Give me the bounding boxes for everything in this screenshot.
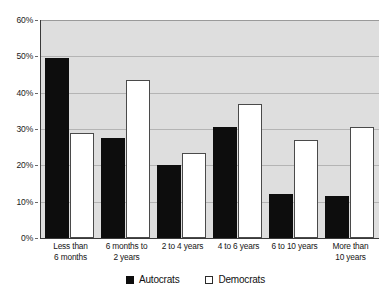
chart-legend: Autocrats Democrats <box>0 274 391 285</box>
bars-layer <box>41 20 379 238</box>
x-cat-label-2-to-4-years: 2 to 4 years <box>152 241 213 252</box>
bar-democrats-less-than-6-months <box>70 133 94 238</box>
bar-democrats-more-than-10-years <box>350 127 374 238</box>
x-cat-label-6-months-to-2-years: 6 months to 2 years <box>96 241 157 263</box>
y-tick-label-20: 20% <box>17 160 33 170</box>
y-tick-dash-0 <box>35 238 38 239</box>
bar-group-4-to-6-years <box>213 20 266 238</box>
y-tick-dash-30 <box>35 129 38 130</box>
legend-swatch-democrats-icon <box>205 276 213 284</box>
bar-democrats-6-months-to-2-years <box>126 80 150 238</box>
bar-group-6-to-10-years <box>269 20 322 238</box>
y-axis: 60% 50% 40% 30% 20% 10% 0% <box>0 0 38 298</box>
y-tick-label-60: 60% <box>17 15 33 25</box>
bar-autocrats-6-to-10-years <box>269 194 293 238</box>
y-tick-dash-60 <box>35 20 38 21</box>
y-tick-dash-20 <box>35 165 38 166</box>
y-tick-label-30: 30% <box>17 124 33 134</box>
bar-autocrats-more-than-10-years <box>325 196 349 238</box>
plot-area <box>40 20 379 239</box>
legend-swatch-autocrats-icon <box>126 276 134 284</box>
bar-chart: 60% 50% 40% 30% 20% 10% 0% <box>0 0 391 298</box>
bar-democrats-6-to-10-years <box>294 140 318 238</box>
y-tick-label-10: 10% <box>17 197 33 207</box>
bar-autocrats-less-than-6-months <box>45 58 69 238</box>
y-tick-label-50: 50% <box>17 51 33 61</box>
y-tick-label-40: 40% <box>17 88 33 98</box>
legend-label-autocrats: Autocrats <box>139 274 179 285</box>
bar-autocrats-2-to-4-years <box>157 165 181 238</box>
legend-item-autocrats: Autocrats <box>126 274 179 285</box>
bar-group-less-than-6-months <box>45 20 98 238</box>
bar-autocrats-6-months-to-2-years <box>101 138 125 238</box>
bar-democrats-2-to-4-years <box>182 153 206 238</box>
x-axis: Less than 6 months 6 months to 2 years 2… <box>40 241 378 273</box>
x-cat-label-less-than-6-months: Less than 6 months <box>40 241 101 263</box>
y-tick-dash-40 <box>35 93 38 94</box>
bar-group-more-than-10-years <box>325 20 378 238</box>
x-cat-label-6-to-10-years: 6 to 10 years <box>264 241 325 252</box>
legend-label-democrats: Democrats <box>218 274 265 285</box>
y-tick-dash-10 <box>35 202 38 203</box>
bar-democrats-4-to-6-years <box>238 104 262 238</box>
bar-group-2-to-4-years <box>157 20 210 238</box>
bar-group-6-months-to-2-years <box>101 20 154 238</box>
legend-item-democrats: Democrats <box>205 274 265 285</box>
y-tick-dash-50 <box>35 56 38 57</box>
x-cat-label-more-than-10-years: More than 10 years <box>320 241 381 263</box>
bar-autocrats-4-to-6-years <box>213 127 237 238</box>
x-cat-label-4-to-6-years: 4 to 6 years <box>208 241 269 252</box>
y-tick-label-0: 0% <box>21 233 33 243</box>
